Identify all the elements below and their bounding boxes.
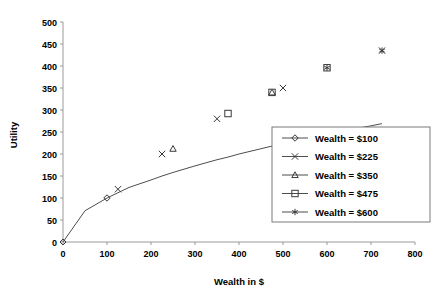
utility-chart: 050100150200250300350400450500 010020030… [0,0,439,299]
chart-canvas: 050100150200250300350400450500 010020030… [0,0,439,299]
y-tick-label: 300 [42,106,57,116]
y-tick-label: 400 [42,62,57,72]
x-tick-label: 400 [231,249,246,259]
y-tick-label: 0 [52,238,57,248]
y-tick-label: 450 [42,40,57,50]
y-tick-label: 150 [42,172,57,182]
x-tick-label: 200 [143,249,158,259]
legend-item-label: Wealth = $100 [315,133,378,144]
x-tick-label: 700 [363,249,378,259]
chart-legend: Wealth = $100Wealth = $225Wealth = $350W… [272,127,430,222]
x-tick-label: 300 [187,249,202,259]
y-tick-label: 250 [42,128,57,138]
legend-item-label: Wealth = $475 [315,188,379,199]
x-tick-label: 600 [319,249,334,259]
y-axis-title: Utility [8,121,19,148]
y-tick-label: 200 [42,150,57,160]
y-tick-label: 50 [47,216,57,226]
x-tick-label: 500 [275,249,290,259]
y-tick-label: 100 [42,194,57,204]
x-tick-label: 0 [60,249,65,259]
x-axis-title: Wealth in $ [214,276,265,287]
legend-item-label: Wealth = $350 [315,170,378,181]
legend-item-label: Wealth = $225 [315,151,379,162]
x-tick-label: 100 [99,249,114,259]
legend-item-label: Wealth = $600 [315,207,378,218]
y-tick-label: 350 [42,84,57,94]
y-tick-label: 500 [42,18,57,28]
x-tick-label: 800 [407,249,422,259]
